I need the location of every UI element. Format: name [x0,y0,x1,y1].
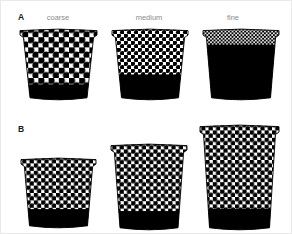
figure-canvas: A coarse medium fine B [0,0,292,234]
panel-letter-b: B [18,125,24,134]
column-label-coarse: coarse [38,14,78,22]
pot-coarse [18,27,99,102]
column-label-medium: medium [129,14,169,22]
pot-fine [201,27,281,102]
pot-small-size [19,156,98,230]
pot-large-size [198,123,281,232]
panel-letter-a: A [18,13,24,22]
column-label-fine: fine [213,14,253,22]
pot-medium [110,27,190,102]
pot-medium-size [109,142,189,232]
